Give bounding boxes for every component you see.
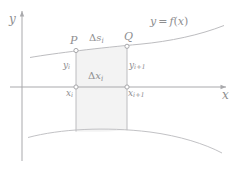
delta-x-label: Δxi xyxy=(88,71,103,82)
figure-graphics xyxy=(0,0,239,173)
point-label-q: Q xyxy=(124,31,133,42)
y-axis-label: y xyxy=(9,13,16,25)
y-i-plus-1-label: yi+1 xyxy=(129,61,146,71)
x-i-plus-1-subscript: i+1 xyxy=(133,91,145,99)
y-i-plus-1-subscript: i+1 xyxy=(134,63,146,71)
function-label-eq: = xyxy=(158,15,167,28)
x-axis-label: x xyxy=(222,89,229,101)
function-label: y=f(x) xyxy=(150,16,188,27)
shaded-strip-region xyxy=(76,46,127,132)
figure-canvas: y x y=f(x) P Q Δsi Δxi yi yi+1 xi xi+1 xyxy=(0,0,239,173)
x-i-plus-1-label: xi+1 xyxy=(128,89,145,99)
x-i-subscript: i xyxy=(71,91,73,99)
arc-length-subscript: i xyxy=(101,36,103,45)
y-axis-arrowhead xyxy=(20,11,24,17)
y-i-subscript: i xyxy=(68,63,70,71)
arc-length-label: Δsi xyxy=(89,33,104,44)
point-label-p: P xyxy=(70,35,77,46)
y-i-label: yi xyxy=(63,61,70,71)
point-marker-p xyxy=(74,48,78,52)
x-i-label: xi xyxy=(66,89,73,99)
function-label-lhs: y xyxy=(150,15,156,28)
point-marker-q xyxy=(125,44,129,48)
point-marker-xi xyxy=(74,85,78,89)
function-label-close-paren: ) xyxy=(184,15,188,28)
delta-x-subscript: i xyxy=(101,74,103,83)
lower-arc-curve xyxy=(28,129,222,153)
